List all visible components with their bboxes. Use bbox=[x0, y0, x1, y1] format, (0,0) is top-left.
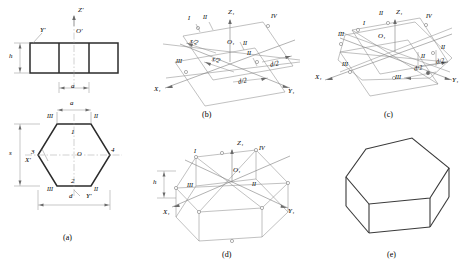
label-roman-II-c2: II bbox=[421, 53, 425, 59]
b-z1-arrowhead bbox=[228, 19, 232, 24]
d-pt-bottom bbox=[230, 239, 233, 242]
d-diag-3 bbox=[199, 150, 256, 212]
label-roman-II-c1: II bbox=[379, 10, 383, 16]
b-tick-2 bbox=[209, 22, 213, 30]
label-roman-I-d: I bbox=[194, 148, 196, 154]
d-arrow-left bbox=[39, 204, 44, 207]
panel-c-hexagon-iso bbox=[325, 18, 452, 96]
label-a-top: a bbox=[70, 99, 74, 107]
c-d2-dot bbox=[426, 71, 430, 75]
label-roman-IV-b: IV bbox=[271, 13, 277, 19]
s-arrow-up bbox=[19, 125, 22, 130]
y-prime-tick bbox=[74, 190, 80, 196]
top-a-arrow-right bbox=[86, 109, 91, 112]
label-x-prime-top: X' bbox=[25, 156, 31, 164]
label-roman-II-d: II bbox=[252, 181, 256, 187]
e-bottom-front bbox=[369, 227, 430, 233]
label-roman-III-tl: III bbox=[47, 113, 53, 119]
label-y1-d: Y₁ bbox=[288, 207, 294, 215]
s-arrow-down bbox=[19, 181, 22, 186]
caption-c: (c) bbox=[384, 110, 393, 119]
c-y1-arrow bbox=[445, 77, 451, 80]
h-arrow-up bbox=[19, 44, 22, 49]
label-o1-b: O₁ bbox=[227, 38, 235, 46]
caption-e: (e) bbox=[387, 250, 396, 259]
b-pt-IV bbox=[266, 24, 269, 27]
e-bottom-right bbox=[430, 197, 449, 227]
top-a-arrow-left bbox=[58, 109, 63, 112]
b-s2-arrow-2 bbox=[205, 62, 211, 66]
panel-e-solid bbox=[346, 138, 449, 233]
label-y-prime-front: Y' bbox=[40, 26, 45, 34]
d-arrow-right bbox=[105, 204, 110, 207]
d-pt-top bbox=[220, 151, 223, 154]
label-o-prime-front: O' bbox=[76, 27, 83, 35]
d-y1-arrow bbox=[281, 205, 287, 208]
c-pt-II bbox=[386, 21, 389, 24]
d-z1-arrowhead bbox=[230, 149, 234, 154]
label-s-top: s bbox=[9, 149, 12, 157]
label-o1-c: O₁ bbox=[378, 32, 386, 40]
label-roman-IV-c: IV bbox=[426, 13, 432, 19]
caption-d: (d) bbox=[222, 250, 231, 259]
label-y1-b: Y₁ bbox=[288, 87, 294, 95]
c-pt-III-a bbox=[339, 42, 342, 45]
c-x1-arrow bbox=[326, 77, 333, 80]
d-h-arrow-down bbox=[163, 193, 166, 198]
label-vertex-1: 1 bbox=[71, 128, 75, 136]
e-bottom-left bbox=[346, 206, 369, 233]
label-z1-b: Z₁ bbox=[228, 8, 234, 16]
c-pt-II-b bbox=[431, 51, 434, 54]
b-x1-arrow bbox=[166, 85, 173, 88]
d-x1-arrow bbox=[173, 204, 180, 207]
label-z-prime-front: Z' bbox=[78, 6, 83, 14]
d-pt-IV bbox=[254, 148, 257, 151]
c-pt-IV bbox=[424, 23, 427, 26]
a-arrow-left bbox=[60, 87, 65, 90]
label-origin-top: O bbox=[77, 150, 82, 157]
label-roman-II-b3: II bbox=[243, 40, 247, 46]
c-parallelogram-1 bbox=[352, 18, 448, 74]
panel-a-front-view bbox=[14, 15, 118, 93]
label-roman-III-bl: III bbox=[47, 186, 53, 192]
label-x1-d: X₁ bbox=[163, 208, 170, 216]
label-roman-II-b2: II bbox=[247, 50, 251, 56]
a-arrow-right bbox=[84, 87, 89, 90]
label-x1-b: X₁ bbox=[154, 85, 161, 93]
label-roman-IV-d: IV bbox=[259, 145, 265, 151]
d-pt-V bbox=[197, 210, 200, 213]
figure-canvas: Z' O' Y' h a 1 2 3 4 O III II III II X' … bbox=[0, 0, 472, 275]
label-roman-I-b: I bbox=[188, 15, 190, 21]
c-pt-III-b bbox=[348, 70, 351, 73]
h-arrow-down bbox=[19, 68, 22, 73]
b-pt-II bbox=[255, 60, 258, 63]
d-pt-II bbox=[286, 181, 289, 184]
label-vertex-2: 2 bbox=[71, 177, 75, 185]
c-parallelogram-2 bbox=[340, 40, 438, 96]
panel-d-prism bbox=[157, 148, 290, 242]
y-prime-leader bbox=[33, 33, 42, 43]
label-roman-III-b: III bbox=[176, 58, 182, 64]
label-h-front: h bbox=[9, 52, 13, 60]
label-roman-I-c: I bbox=[363, 20, 365, 26]
label-roman-III-c2: III bbox=[342, 61, 348, 67]
label-roman-II-b1: II bbox=[203, 14, 207, 20]
label-roman-III-c3: III bbox=[395, 74, 401, 80]
label-y1-c: Y₁ bbox=[452, 76, 458, 84]
label-x1-c: X₁ bbox=[315, 73, 322, 81]
b-pt-III bbox=[184, 70, 187, 73]
d-h-arrow-up bbox=[163, 172, 166, 177]
label-z1-d: Z₁ bbox=[237, 139, 243, 147]
label-z1-c: Z₁ bbox=[396, 8, 402, 16]
label-o1-d: O₁ bbox=[233, 166, 241, 174]
c-z1-arrowhead bbox=[393, 19, 397, 24]
e-top-face bbox=[346, 138, 449, 204]
label-h-d: h bbox=[153, 178, 157, 186]
label-vertex-4: 4 bbox=[111, 146, 115, 154]
label-roman-II-tr: II bbox=[94, 113, 98, 119]
label-roman-III-d: III bbox=[187, 182, 193, 188]
d-pt-I bbox=[194, 155, 197, 158]
label-roman-II-c3: II bbox=[441, 44, 445, 50]
b-axis-line-2 bbox=[166, 62, 300, 78]
z-prime-arrowhead bbox=[72, 15, 76, 20]
